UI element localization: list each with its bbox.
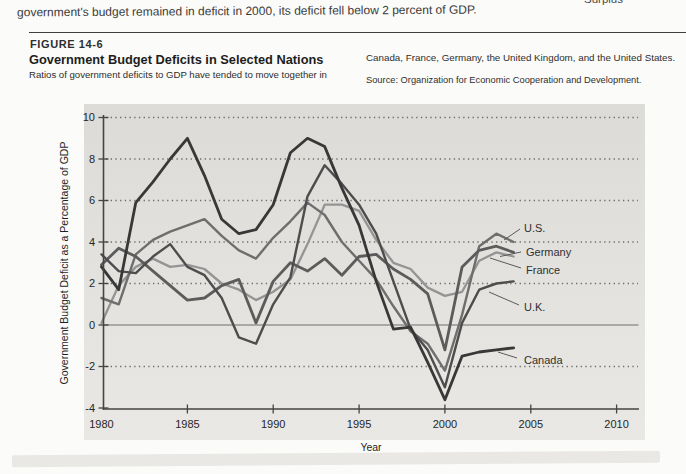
x-axis-title: Year <box>360 441 382 453</box>
x-tick-label-2005: 2005 <box>519 418 543 430</box>
y-tick-label-4: 4 <box>89 236 95 248</box>
y-tick-label--4: -4 <box>85 402 95 414</box>
x-tick-label-1985: 1985 <box>175 418 199 430</box>
y-axis-title: Government Budget Deficit as a Percentag… <box>58 142 70 385</box>
france-series-label: France <box>526 264 560 276</box>
x-tick-label-2010: 2010 <box>604 418 628 430</box>
plot-panel <box>84 104 645 440</box>
x-tick-label-2000: 2000 <box>433 418 457 430</box>
y-tick-label-0: 0 <box>89 319 95 331</box>
x-tick-label-1980: 1980 <box>89 418 113 430</box>
deficit-line-chart: 1086420-2-41980198519901995200020052010 … <box>0 0 686 474</box>
y-tick-label-8: 8 <box>89 153 95 165</box>
canada-series-label: Canada <box>524 354 563 366</box>
x-tick-label-1995: 1995 <box>347 418 371 430</box>
y-tick-label-10: 10 <box>83 111 95 123</box>
x-tick-label-1990: 1990 <box>261 418 285 430</box>
y-tick-label-6: 6 <box>89 194 95 206</box>
germany-series-label: Germany <box>526 246 572 258</box>
us-series-label: U.S. <box>524 222 545 234</box>
y-tick-label--2: -2 <box>85 360 95 372</box>
y-tick-label-2: 2 <box>89 277 95 289</box>
uk-series-label: U.K. <box>524 301 545 313</box>
